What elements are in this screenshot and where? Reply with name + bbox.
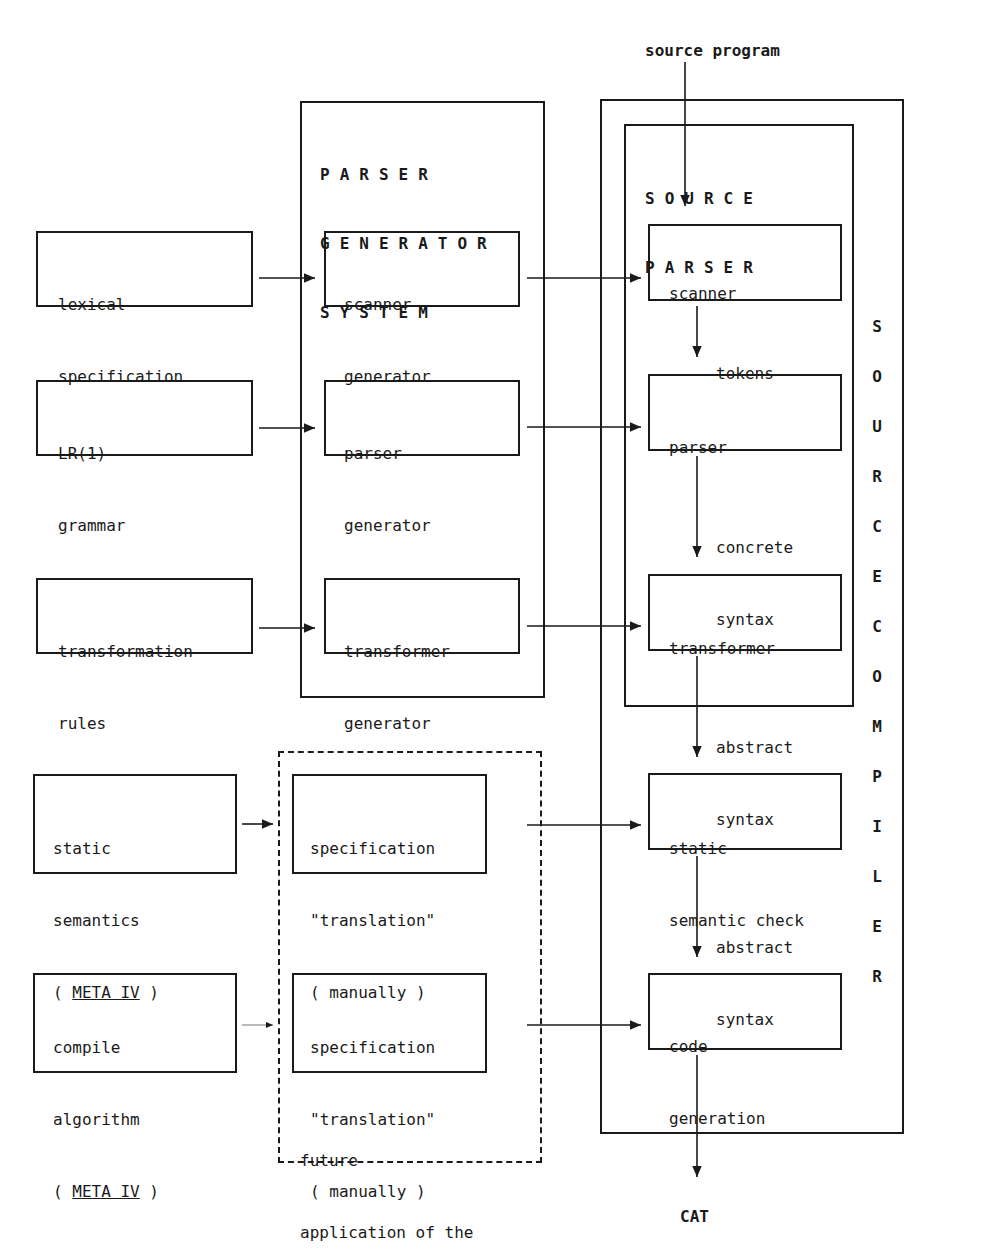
vertical-letter: R — [867, 467, 887, 486]
flow-label-tokens: tokens — [716, 314, 774, 410]
paren: ( — [53, 1182, 72, 1201]
vertical-letter: R — [867, 967, 887, 986]
vertical-letter: O — [867, 667, 887, 686]
vertical-letter: O — [867, 367, 887, 386]
box-label: generator — [344, 514, 431, 538]
flow-label-abstract-syntax-2: abstract syntax — [716, 888, 793, 1056]
caption-line: future — [300, 1149, 473, 1173]
flow-label: abstract — [716, 736, 793, 760]
box-label: "translation" — [310, 909, 435, 933]
box-label: algorithm — [53, 1108, 159, 1132]
scanner-generator-box[interactable]: scanner generator — [324, 231, 520, 307]
flow-label: concrete — [716, 536, 793, 560]
input-static-semantics[interactable]: static semantics ( META IV ) — [33, 774, 237, 874]
flow-label-concrete-syntax: concrete syntax — [716, 488, 793, 656]
flow-label: tokens — [716, 362, 774, 386]
spec-translation-box-1[interactable]: specification "translation" ( manually ) — [292, 774, 487, 874]
input-lexical-specification[interactable]: lexical specification — [36, 231, 253, 307]
vertical-letter: C — [867, 517, 887, 536]
source-program-label: source program — [645, 39, 780, 63]
box-label: grammar — [58, 514, 125, 538]
box-label: scanner — [344, 293, 431, 317]
spec-translation-box-2[interactable]: specification "translation" ( manually ) — [292, 973, 487, 1073]
vertical-letter: I — [867, 817, 887, 836]
vertical-letter: U — [867, 417, 887, 436]
vertical-letter: S — [867, 317, 887, 336]
box-label: generator — [344, 712, 450, 736]
transformer-generator-box[interactable]: transformer generator — [324, 578, 520, 654]
vertical-letter: E — [867, 917, 887, 936]
box-label: parser — [344, 442, 431, 466]
box-label: specification — [310, 837, 435, 861]
title-line: SOURCE — [645, 187, 763, 210]
box-label: lexical — [58, 293, 183, 317]
vertical-letter: P — [867, 767, 887, 786]
future-application-caption: future application of the META IV compil… — [300, 1101, 473, 1251]
vertical-letter: M — [867, 717, 887, 736]
input-transformation-rules[interactable]: transformation rules — [36, 578, 253, 654]
box-label: generation — [669, 1107, 765, 1131]
cat-output-label: CAT — [680, 1205, 709, 1229]
flow-label: abstract — [716, 936, 793, 960]
input-lr1-grammar[interactable]: LR(1)- grammar — [36, 380, 253, 456]
flow-label: syntax — [716, 1008, 793, 1032]
meta-line: ( META IV ) — [53, 1180, 159, 1204]
caption-line: application of the — [300, 1221, 473, 1245]
flow-label: syntax — [716, 608, 793, 632]
box-label: transformation — [58, 640, 193, 664]
title-line: PARSER — [320, 163, 497, 186]
box-label: parser — [669, 436, 727, 460]
box-label: scanner — [669, 282, 736, 306]
box-label: LR(1)- — [58, 442, 125, 466]
box-label: transformer — [344, 640, 450, 664]
box-label: semantics — [53, 909, 159, 933]
meta-iv-label: META IV — [72, 1182, 139, 1201]
vertical-letter: C — [867, 617, 887, 636]
flow-label-abstract-syntax-1: abstract syntax — [716, 688, 793, 856]
box-label: compile — [53, 1036, 159, 1060]
parser-generator-box[interactable]: parser generator — [324, 380, 520, 456]
vertical-letter: L — [867, 867, 887, 886]
scanner-box[interactable]: scanner — [648, 224, 842, 301]
box-label: static — [53, 837, 159, 861]
vertical-letter: E — [867, 567, 887, 586]
flow-label: syntax — [716, 808, 793, 832]
box-label: specification — [310, 1036, 435, 1060]
paren: ) — [140, 1182, 159, 1201]
box-label: rules — [58, 712, 193, 736]
input-compile-algorithm[interactable]: compile algorithm ( META IV ) — [33, 973, 237, 1073]
